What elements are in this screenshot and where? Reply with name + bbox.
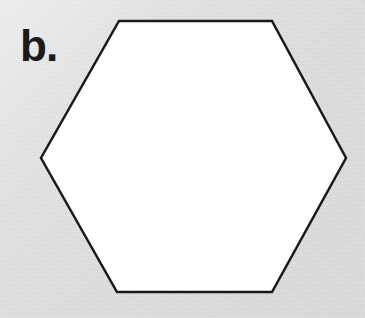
hexagon-shape [41,21,346,292]
figure-label: b. [20,24,57,68]
figure-canvas: b. [0,0,365,318]
